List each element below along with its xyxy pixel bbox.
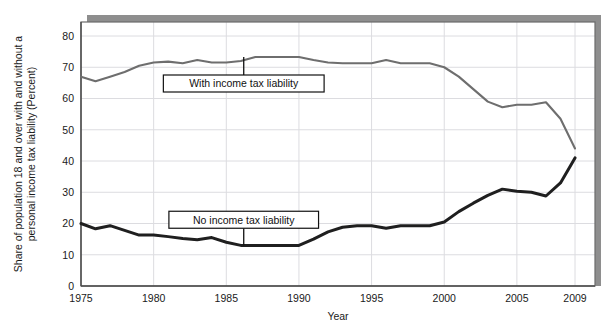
income-tax-liability-chart: 0102030405060708019751980198519901995200… — [0, 0, 614, 335]
x-tick-label: 2005 — [505, 292, 529, 304]
chart-canvas: 0102030405060708019751980198519901995200… — [0, 0, 614, 335]
y-axis-title: Share of population 18 and over with and… — [12, 36, 37, 273]
y-tick-label: 60 — [62, 92, 74, 104]
x-tick-label: 1995 — [360, 292, 384, 304]
annotation-label: With income tax liability — [189, 77, 299, 89]
annotation-label: No income tax liability — [193, 214, 295, 226]
y-tick-label: 0 — [68, 280, 74, 292]
y-tick-label: 20 — [62, 217, 74, 229]
y-tick-label: 80 — [62, 30, 74, 42]
y-tick-labels: 01020304050607080 — [62, 30, 74, 292]
y-axis-title-line: Share of population 18 and over with and… — [12, 36, 24, 273]
y-tick-label: 10 — [62, 249, 74, 261]
x-tick-labels: 19751980198519901995200020052009 — [69, 292, 587, 304]
x-tick-label: 1990 — [287, 292, 311, 304]
x-tick-label: 1985 — [215, 292, 239, 304]
x-tick-label: 2009 — [563, 292, 587, 304]
x-tick-label: 1975 — [69, 292, 93, 304]
y-tick-label: 50 — [62, 124, 74, 136]
x-tick-label: 1980 — [142, 292, 166, 304]
y-tick-label: 70 — [62, 61, 74, 73]
x-tick-label: 2000 — [433, 292, 457, 304]
y-axis-title-line: personal income tax liability (Percent) — [25, 67, 37, 242]
x-axis-title: Year — [327, 310, 349, 322]
y-tick-label: 30 — [62, 186, 74, 198]
y-tick-label: 40 — [62, 155, 74, 167]
